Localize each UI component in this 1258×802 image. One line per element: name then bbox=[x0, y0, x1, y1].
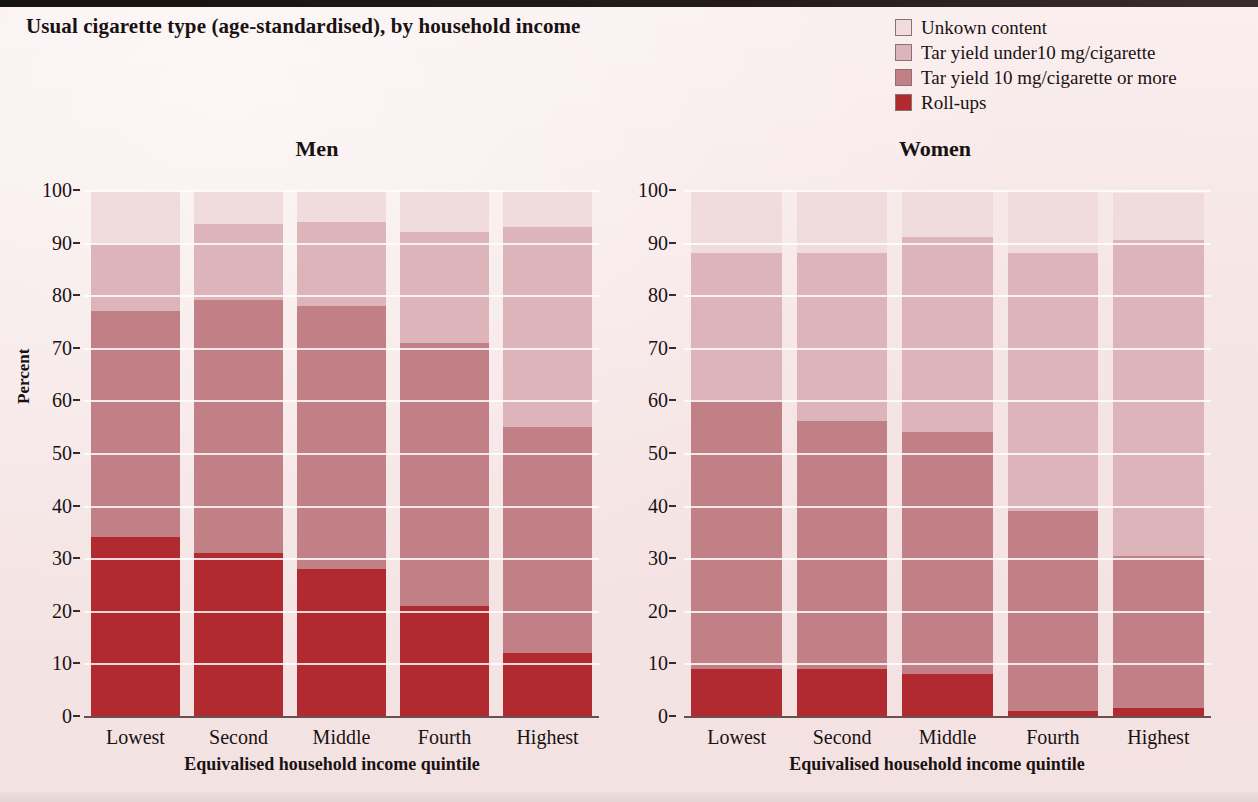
y-tick-mark bbox=[73, 715, 80, 717]
y-tick-mark bbox=[73, 452, 80, 454]
bar-segment bbox=[297, 190, 386, 222]
bar-slot bbox=[1000, 190, 1105, 716]
bar-segment bbox=[902, 237, 993, 432]
y-tick-mark bbox=[669, 294, 676, 296]
stacked-bar[interactable] bbox=[902, 190, 993, 716]
bar-segment bbox=[797, 421, 888, 668]
stacked-bar[interactable] bbox=[400, 190, 489, 716]
bar-segment bbox=[503, 427, 592, 653]
panel-men: Men Percent 0102030405060708090100 Lowes… bbox=[12, 136, 622, 776]
bar-segment bbox=[400, 343, 489, 606]
bar-segment bbox=[91, 537, 180, 716]
y-axis-ticks-women: 0102030405060708090100 bbox=[624, 190, 676, 716]
bar-slot bbox=[393, 190, 496, 716]
x-axis-line-women bbox=[684, 716, 1211, 718]
bar-segment bbox=[400, 190, 489, 232]
y-tick-label: 80 bbox=[648, 285, 668, 305]
stacked-bar[interactable] bbox=[194, 190, 283, 716]
y-tick-mark bbox=[669, 505, 676, 507]
bar-group-women bbox=[684, 190, 1211, 716]
bar-segment bbox=[194, 553, 283, 716]
bar-segment bbox=[902, 432, 993, 674]
y-tick-mark bbox=[73, 505, 80, 507]
legend-swatch-icon bbox=[895, 19, 912, 36]
stacked-bar[interactable] bbox=[1008, 190, 1099, 716]
stacked-bar[interactable] bbox=[797, 190, 888, 716]
y-tick-label: 10 bbox=[648, 653, 668, 673]
y-tick-label: 0 bbox=[62, 706, 72, 726]
y-axis-ticks-men: 0102030405060708090100 bbox=[28, 190, 80, 716]
y-tick-label: 20 bbox=[648, 601, 668, 621]
bar-segment bbox=[297, 306, 386, 569]
panel-title-women: Women bbox=[622, 136, 1248, 162]
x-axis-title-men: Equivalised household income quintile bbox=[52, 754, 612, 775]
y-tick-mark bbox=[73, 557, 80, 559]
legend-swatch-icon bbox=[895, 69, 912, 86]
bar-segment bbox=[194, 190, 283, 224]
bar-segment bbox=[503, 190, 592, 227]
y-tick-mark bbox=[669, 715, 676, 717]
bar-segment bbox=[1113, 240, 1204, 556]
x-axis-ticklabels-women: LowestSecondMiddleFourthHighest bbox=[684, 726, 1211, 749]
figure-page: Usual cigarette type (age-standardised),… bbox=[0, 0, 1258, 802]
bar-segment bbox=[194, 224, 283, 300]
x-tick-label: Highest bbox=[1106, 726, 1211, 749]
y-tick-mark bbox=[669, 557, 676, 559]
bar-segment bbox=[1008, 190, 1099, 253]
y-tick-label: 70 bbox=[648, 338, 668, 358]
y-tick-label: 90 bbox=[52, 233, 72, 253]
y-tick-label: 100 bbox=[638, 180, 668, 200]
y-tick-label: 30 bbox=[648, 548, 668, 568]
y-tick-mark bbox=[73, 242, 80, 244]
legend-item: Tar yield 10 mg/cigarette or more bbox=[895, 66, 1177, 89]
stacked-bar[interactable] bbox=[297, 190, 386, 716]
y-tick-label: 40 bbox=[52, 496, 72, 516]
bar-segment bbox=[902, 674, 993, 716]
bar-segment bbox=[797, 253, 888, 421]
x-tick-label: Middle bbox=[290, 726, 393, 749]
y-tick-mark bbox=[669, 189, 676, 191]
y-tick-label: 50 bbox=[52, 443, 72, 463]
y-tick-mark bbox=[669, 242, 676, 244]
chart-legend: Unkown contentTar yield under10 mg/cigar… bbox=[895, 16, 1177, 114]
bar-segment bbox=[1113, 708, 1204, 716]
x-tick-label: Highest bbox=[496, 726, 599, 749]
bar-segment bbox=[1008, 511, 1099, 711]
bar-segment bbox=[91, 190, 180, 243]
legend-item: Tar yield under10 mg/cigarette bbox=[895, 41, 1177, 64]
bar-slot bbox=[84, 190, 187, 716]
bar-segment bbox=[691, 190, 782, 253]
bar-slot bbox=[789, 190, 894, 716]
y-tick-label: 20 bbox=[52, 601, 72, 621]
y-tick-label: 90 bbox=[648, 233, 668, 253]
x-tick-label: Lowest bbox=[84, 726, 187, 749]
y-tick-mark bbox=[669, 399, 676, 401]
bar-segment bbox=[400, 232, 489, 342]
y-tick-label: 0 bbox=[658, 706, 668, 726]
y-tick-label: 40 bbox=[648, 496, 668, 516]
x-tick-label: Lowest bbox=[684, 726, 789, 749]
stacked-bar[interactable] bbox=[503, 190, 592, 716]
bar-segment bbox=[691, 669, 782, 716]
bar-segment bbox=[691, 400, 782, 668]
bar-segment bbox=[194, 300, 283, 552]
y-tick-mark bbox=[73, 399, 80, 401]
y-tick-label: 50 bbox=[648, 443, 668, 463]
bar-segment bbox=[91, 243, 180, 311]
bar-segment bbox=[1008, 253, 1099, 511]
bar-segment bbox=[400, 606, 489, 716]
x-tick-label: Fourth bbox=[393, 726, 496, 749]
bar-segment bbox=[902, 190, 993, 237]
y-tick-mark bbox=[73, 662, 80, 664]
legend-item-label: Tar yield under10 mg/cigarette bbox=[921, 43, 1156, 62]
stacked-bar[interactable] bbox=[691, 190, 782, 716]
y-tick-mark bbox=[73, 347, 80, 349]
figure-title: Usual cigarette type (age-standardised),… bbox=[26, 14, 581, 39]
bar-segment bbox=[1113, 556, 1204, 709]
y-tick-label: 100 bbox=[42, 180, 72, 200]
stacked-bar[interactable] bbox=[1113, 190, 1204, 716]
stacked-bar[interactable] bbox=[91, 190, 180, 716]
legend-item: Unkown content bbox=[895, 16, 1177, 39]
y-tick-label: 70 bbox=[52, 338, 72, 358]
y-tick-label: 80 bbox=[52, 285, 72, 305]
